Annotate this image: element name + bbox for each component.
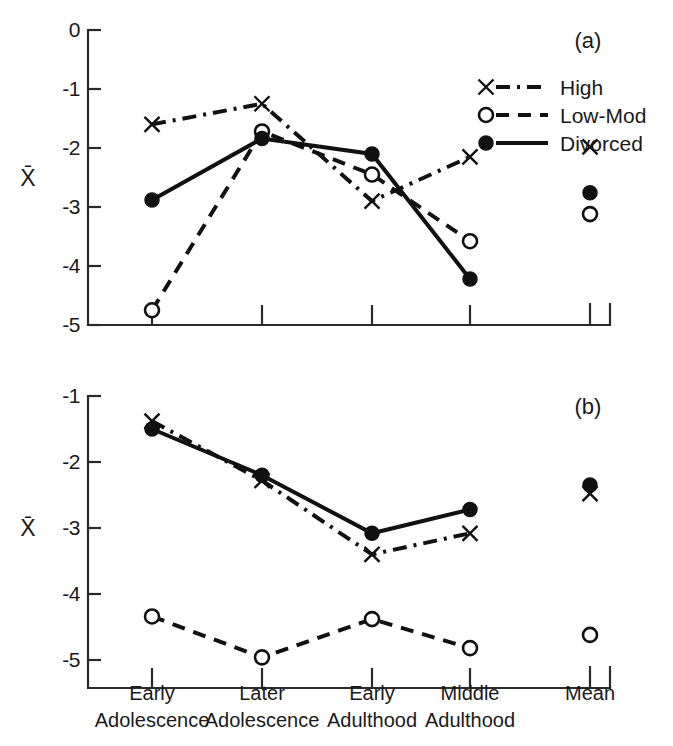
data-point-divorced-2-panel-b xyxy=(255,468,269,482)
legend-label-divorced: Divorced xyxy=(560,132,643,155)
y-tick-label-panel-a: -3 xyxy=(62,195,80,218)
legend-label-low-mod: Low-Mod xyxy=(560,104,646,127)
mean-point-low-mod-panel-b xyxy=(583,628,597,642)
y-tick-label-panel-a: -1 xyxy=(62,77,80,100)
y-tick-label-panel-a: -5 xyxy=(62,313,80,336)
mean-point-low-mod-panel-a xyxy=(583,207,597,221)
legend-label-high: High xyxy=(560,76,603,99)
x-marker-icon xyxy=(479,80,494,95)
data-point-divorced-1-panel-b xyxy=(145,422,159,436)
data-point-divorced-4-panel-a xyxy=(463,272,477,286)
data-point-divorced-3-panel-a xyxy=(365,147,379,161)
x-axis-label-3-line2: Adulthood xyxy=(327,709,417,731)
data-point-low-mod-1-panel-b xyxy=(145,609,159,623)
data-point-low-mod-4-panel-a xyxy=(463,234,477,248)
x-axis-label-1-line1: Early xyxy=(129,682,175,704)
y-tick-label-panel-b: -1 xyxy=(62,384,80,407)
figure-root: 0-1-2-3-4-5X̄(a)-1-2-3-4-5X̄(b)HighLow-M… xyxy=(0,0,673,746)
panel-label-b: (b) xyxy=(575,394,602,419)
axis-frame-panel-b xyxy=(88,396,610,688)
data-point-divorced-3-panel-b xyxy=(365,526,379,540)
data-point-high-3-panel-a xyxy=(365,194,380,209)
x-axis-label-1-line2: Adolescence xyxy=(95,709,210,731)
data-point-divorced-2-panel-a xyxy=(255,132,269,146)
data-point-low-mod-3-panel-a xyxy=(365,168,379,182)
data-point-high-4-panel-a xyxy=(463,149,478,164)
x-axis-label-5-line1: Mean xyxy=(565,682,615,704)
series-line-divorced-panel-a xyxy=(152,139,470,279)
mean-point-divorced-panel-b xyxy=(583,478,597,492)
data-point-low-mod-4-panel-b xyxy=(463,641,477,655)
axis-frame-panel-a xyxy=(88,30,610,325)
y-tick-label-panel-b: -3 xyxy=(62,516,80,539)
data-point-low-mod-2-panel-b xyxy=(255,650,269,664)
series-line-low-mod-panel-b xyxy=(152,616,470,657)
series-line-high-panel-a xyxy=(152,104,470,201)
data-point-low-mod-3-panel-b xyxy=(365,612,379,626)
y-tick-label-panel-a: 0 xyxy=(69,18,80,41)
y-tick-label-panel-b: -2 xyxy=(62,450,80,473)
chart-canvas: 0-1-2-3-4-5X̄(a)-1-2-3-4-5X̄(b)HighLow-M… xyxy=(0,0,673,746)
series-line-high-panel-b xyxy=(152,421,470,554)
x-axis-label-2-line2: Adolescence xyxy=(205,709,320,731)
x-axis-label-2-line1: Later xyxy=(239,682,285,704)
data-point-low-mod-1-panel-a xyxy=(145,303,159,317)
data-point-divorced-4-panel-b xyxy=(463,503,477,517)
mean-point-divorced-panel-a xyxy=(583,186,597,200)
data-point-high-3-panel-b xyxy=(365,547,380,562)
open-circle-marker-icon xyxy=(479,108,493,122)
y-tick-label-panel-a: -4 xyxy=(62,254,80,277)
y-axis-title-panel-a: X̄ xyxy=(20,165,35,191)
x-axis-label-3-line1: Early xyxy=(349,682,395,704)
x-axis-label-4-line2: Adulthood xyxy=(425,709,515,731)
y-tick-label-panel-b: -4 xyxy=(62,582,80,605)
y-tick-label-panel-b: -5 xyxy=(62,648,80,671)
data-point-divorced-1-panel-a xyxy=(145,193,159,207)
filled-circle-marker-icon xyxy=(479,136,493,150)
y-axis-title-panel-b: X̄ xyxy=(20,515,35,541)
y-tick-label-panel-a: -2 xyxy=(62,136,80,159)
panel-label-a: (a) xyxy=(575,28,602,53)
x-axis-label-4-line1: Middle xyxy=(441,682,500,704)
